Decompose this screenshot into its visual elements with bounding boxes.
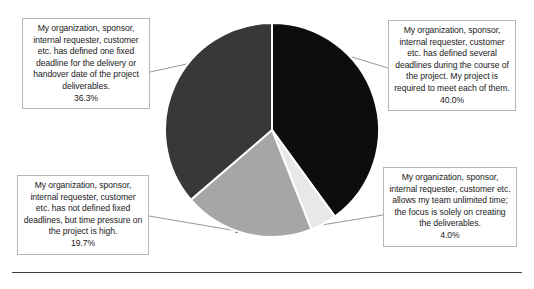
callout-fixed-deadline: My organization, sponsor, internal reque…	[22, 18, 150, 109]
callout-unlimited-time-percent: 4.0%	[389, 230, 511, 242]
pie-chart-figure: My organization, sponsor, internal reque…	[0, 0, 534, 289]
callout-fixed-deadline-percent: 36.3%	[28, 93, 144, 105]
callout-no-fixed-deadlines-text: My organization, sponsor, internal reque…	[24, 180, 142, 236]
callout-several-deadlines-text: My organization, sponsor, internal reque…	[394, 25, 510, 93]
pie-slices	[165, 23, 379, 237]
callout-no-fixed-deadlines-percent: 19.7%	[23, 238, 143, 250]
callout-fixed-deadline-text: My organization, sponsor, internal reque…	[33, 23, 139, 91]
callout-several-deadlines-percent: 40.0%	[394, 95, 510, 107]
footer-divider	[12, 272, 522, 273]
callout-unlimited-time-text: My organization, sponsor, internal reque…	[389, 172, 510, 228]
callout-several-deadlines: My organization, sponsor, internal reque…	[388, 20, 516, 111]
callout-no-fixed-deadlines: My organization, sponsor, internal reque…	[17, 175, 149, 255]
callout-unlimited-time: My organization, sponsor, internal reque…	[383, 167, 517, 247]
